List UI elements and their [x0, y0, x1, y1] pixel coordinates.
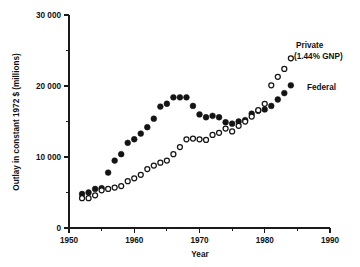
data-point-private — [145, 167, 150, 172]
data-point-federal — [105, 170, 111, 176]
data-point-private — [230, 129, 235, 134]
data-point-private — [184, 137, 189, 142]
x-tick-label: 1950 — [60, 236, 79, 245]
data-point-federal — [275, 97, 281, 103]
data-point-federal — [177, 94, 183, 100]
data-point-private — [99, 188, 104, 193]
data-point-federal — [164, 101, 170, 107]
y-axis-title: Outlay in constant 1972 $ (millions) — [12, 53, 21, 191]
data-point-private — [210, 132, 215, 137]
data-point-federal — [288, 82, 294, 88]
data-point-private — [236, 123, 241, 128]
y-axis-ticks — [64, 15, 69, 228]
data-point-federal — [151, 116, 157, 122]
data-point-federal — [229, 121, 235, 127]
y-tick-label: 20 000 — [36, 82, 61, 91]
data-point-federal — [86, 190, 92, 196]
axes — [69, 15, 330, 228]
data-point-private — [151, 163, 156, 168]
data-point-federal — [118, 151, 124, 157]
data-point-private — [138, 172, 143, 177]
x-axis-ticks — [69, 228, 330, 233]
data-point-federal — [171, 94, 177, 100]
data-point-federal — [190, 103, 196, 109]
private-series-label: Private — [296, 41, 324, 50]
x-tick-label: 1970 — [190, 236, 209, 245]
data-point-private — [275, 74, 280, 79]
data-point-federal — [157, 104, 163, 110]
data-point-private — [112, 185, 117, 190]
data-point-private — [80, 196, 85, 201]
data-point-private — [177, 145, 182, 150]
data-point-federal — [125, 140, 131, 146]
x-axis-title: Year — [191, 250, 209, 259]
data-point-private — [158, 160, 163, 165]
data-point-federal — [262, 107, 268, 113]
data-point-private — [171, 152, 176, 157]
data-point-private — [93, 193, 98, 198]
data-point-private — [197, 137, 202, 142]
data-point-private — [262, 101, 267, 106]
data-point-private — [288, 56, 293, 61]
data-point-federal — [216, 114, 222, 120]
chart-svg: 010 00020 00030 000 19501960197019801990… — [0, 0, 360, 267]
private-series-sublabel: (1.44% GNP) — [294, 52, 343, 61]
data-point-private — [125, 179, 130, 184]
data-point-federal — [210, 113, 216, 119]
x-tick-label: 1960 — [125, 236, 144, 245]
data-point-private — [256, 108, 261, 113]
data-point-private — [249, 114, 254, 119]
data-point-private — [243, 119, 248, 124]
data-point-federal — [131, 136, 137, 142]
data-point-private — [269, 83, 274, 88]
data-point-private — [282, 66, 287, 71]
y-tick-label: 10 000 — [36, 153, 61, 162]
data-point-private — [86, 196, 91, 201]
y-axis-tick-labels: 010 00020 00030 000 — [36, 11, 61, 233]
data-point-private — [204, 137, 209, 142]
federal-series-label: Federal — [307, 83, 336, 92]
data-point-federal — [203, 114, 209, 120]
data-point-private — [164, 158, 169, 163]
y-tick-label: 0 — [56, 224, 61, 233]
data-point-federal — [112, 158, 118, 164]
data-point-federal — [144, 124, 150, 130]
data-point-federal — [92, 186, 98, 192]
data-point-federal — [268, 103, 274, 109]
data-point-federal — [138, 131, 144, 137]
data-point-private — [132, 176, 137, 181]
x-tick-label: 1980 — [256, 236, 275, 245]
data-point-private — [119, 184, 124, 189]
x-axis-tick-labels: 19501960197019801990 — [60, 236, 340, 245]
data-point-private — [106, 186, 111, 191]
data-point-private — [223, 126, 228, 131]
data-point-federal — [197, 112, 203, 118]
y-tick-label: 30 000 — [36, 11, 61, 20]
data-point-federal — [184, 94, 190, 100]
series-private-points — [80, 56, 294, 201]
data-point-private — [190, 136, 195, 141]
data-point-federal — [281, 90, 287, 96]
data-point-federal — [223, 119, 229, 125]
x-tick-label: 1990 — [321, 236, 340, 245]
chart-figure: 010 00020 00030 000 19501960197019801990… — [0, 0, 360, 267]
data-point-private — [217, 130, 222, 135]
